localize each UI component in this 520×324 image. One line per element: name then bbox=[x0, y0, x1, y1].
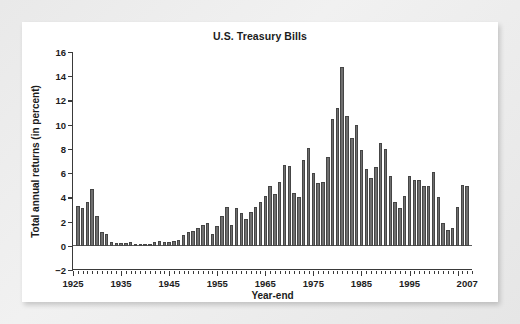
x-tick bbox=[438, 271, 439, 274]
x-tick bbox=[289, 271, 290, 274]
bar bbox=[365, 169, 368, 245]
y-tick-label: 2 bbox=[61, 216, 66, 227]
x-tick bbox=[390, 271, 391, 274]
x-tick bbox=[97, 271, 98, 274]
x-tick bbox=[241, 271, 242, 274]
bar bbox=[240, 213, 243, 246]
x-tick bbox=[333, 271, 334, 274]
bar bbox=[196, 228, 199, 246]
bar bbox=[283, 165, 286, 246]
x-tick bbox=[414, 271, 415, 274]
x-tick bbox=[232, 271, 233, 274]
x-tick bbox=[400, 271, 401, 274]
y-tick-label: −2 bbox=[55, 265, 66, 276]
x-tick bbox=[135, 271, 136, 274]
x-tick bbox=[323, 271, 324, 274]
x-tick bbox=[280, 271, 281, 274]
x-tick bbox=[184, 271, 185, 274]
x-tick bbox=[462, 271, 463, 274]
x-tick bbox=[164, 271, 165, 274]
bar bbox=[326, 157, 329, 245]
bar bbox=[254, 207, 257, 246]
x-tick bbox=[467, 271, 468, 274]
bar bbox=[278, 182, 281, 246]
bar bbox=[129, 242, 132, 246]
x-tick-label: 1945 bbox=[159, 278, 180, 289]
x-tick bbox=[313, 271, 314, 277]
y-tick-label: 8 bbox=[61, 143, 66, 154]
x-tick bbox=[208, 271, 209, 274]
bar bbox=[264, 196, 267, 246]
bar bbox=[187, 232, 190, 245]
bar bbox=[81, 208, 84, 246]
bar bbox=[100, 232, 103, 245]
bar bbox=[268, 186, 271, 245]
y-tick-label: 14 bbox=[55, 71, 66, 82]
x-tick bbox=[410, 271, 411, 277]
chart-card: U.S. Treasury Bills Total annual returns… bbox=[22, 22, 498, 302]
x-tick bbox=[352, 271, 353, 274]
x-tick bbox=[429, 271, 430, 274]
x-tick-label: 1935 bbox=[110, 278, 131, 289]
bar bbox=[302, 160, 305, 246]
bar bbox=[321, 182, 324, 246]
x-tick bbox=[78, 271, 79, 274]
bar bbox=[441, 223, 444, 246]
x-tick bbox=[121, 271, 122, 277]
x-tick bbox=[443, 271, 444, 274]
bar bbox=[345, 116, 348, 246]
x-tick bbox=[458, 271, 459, 277]
bar bbox=[134, 244, 137, 246]
bar bbox=[249, 212, 252, 246]
x-tick-label: 1965 bbox=[255, 278, 276, 289]
x-tick bbox=[453, 271, 454, 274]
x-tick bbox=[116, 271, 117, 274]
bar bbox=[422, 186, 425, 245]
x-tick bbox=[424, 271, 425, 274]
x-tick bbox=[294, 271, 295, 274]
x-tick bbox=[193, 271, 194, 274]
bar bbox=[182, 235, 185, 246]
bar bbox=[461, 185, 464, 246]
bar bbox=[288, 166, 291, 246]
x-tick bbox=[145, 271, 146, 274]
x-tick bbox=[285, 271, 286, 274]
bar bbox=[369, 178, 372, 246]
bar bbox=[148, 244, 151, 246]
x-tick bbox=[385, 271, 386, 274]
y-axis-title: Total annual returns (in percent) bbox=[28, 52, 42, 270]
y-tick-label: 10 bbox=[55, 119, 66, 130]
x-tick-label: 1955 bbox=[207, 278, 228, 289]
x-tick bbox=[270, 271, 271, 274]
bar bbox=[465, 186, 468, 245]
bar bbox=[437, 197, 440, 245]
x-tick bbox=[434, 271, 435, 274]
x-tick bbox=[328, 271, 329, 274]
x-tick bbox=[169, 271, 170, 277]
bar bbox=[220, 216, 223, 246]
bar bbox=[201, 225, 204, 246]
bar bbox=[355, 125, 358, 246]
bar bbox=[417, 180, 420, 245]
bar bbox=[403, 196, 406, 246]
y-tick-label: 4 bbox=[61, 192, 66, 203]
y-axis-title-label: Total annual returns (in percent) bbox=[30, 85, 41, 238]
bar bbox=[139, 244, 142, 246]
x-tick bbox=[150, 271, 151, 274]
bar bbox=[206, 223, 209, 246]
bar bbox=[86, 202, 89, 246]
bar bbox=[427, 186, 430, 245]
x-tick bbox=[366, 271, 367, 274]
x-tick bbox=[357, 271, 358, 274]
bar bbox=[158, 241, 161, 246]
y-tick-label: 0 bbox=[61, 240, 66, 251]
x-tick bbox=[256, 271, 257, 274]
bar bbox=[105, 234, 108, 246]
x-tick bbox=[265, 271, 266, 277]
bar bbox=[389, 176, 392, 246]
x-tick bbox=[419, 271, 420, 274]
bar bbox=[90, 189, 93, 246]
x-tick bbox=[381, 271, 382, 274]
bar bbox=[177, 240, 180, 246]
x-axis-title: Year-end bbox=[73, 290, 472, 301]
